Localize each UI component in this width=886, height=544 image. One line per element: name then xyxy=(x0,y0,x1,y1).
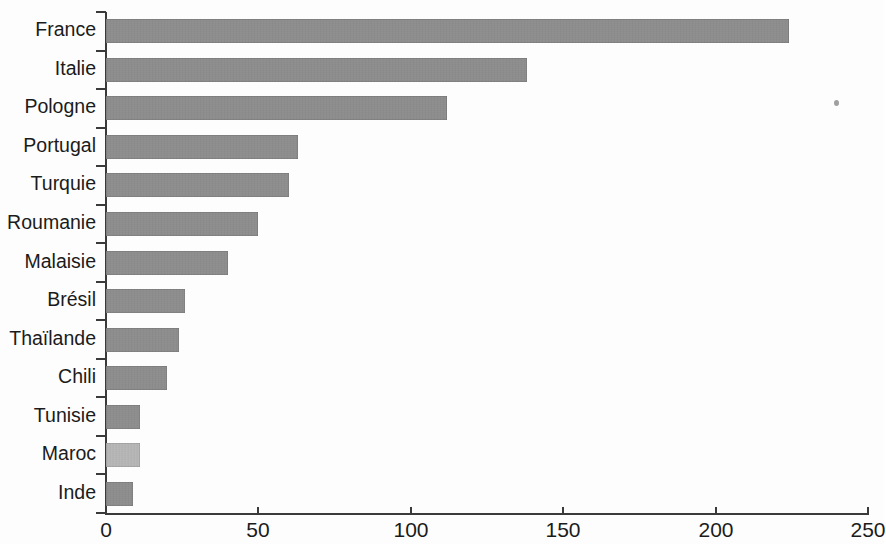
x-axis-tick-label: 50 xyxy=(246,518,269,542)
bar-br-sil xyxy=(106,289,185,313)
scan-speck-icon xyxy=(834,100,839,106)
y-axis-label-italie: Italie xyxy=(0,57,96,80)
bar-roumanie xyxy=(106,212,258,236)
bar-france xyxy=(106,19,789,43)
x-axis-tick xyxy=(410,507,412,515)
y-axis-tick xyxy=(96,358,106,360)
y-axis-tick xyxy=(96,396,106,398)
bar-portugal xyxy=(106,135,298,159)
x-axis-tick-label: 0 xyxy=(100,518,112,542)
y-axis-tick xyxy=(96,50,106,52)
bar-inde xyxy=(106,482,133,506)
x-axis-tick-label: 100 xyxy=(393,518,428,542)
y-axis-tick xyxy=(96,281,106,283)
y-axis-tick xyxy=(96,88,106,90)
y-axis-label-turquie: Turquie xyxy=(0,172,96,195)
x-axis-tick-label: 150 xyxy=(545,518,580,542)
bar-malaisie xyxy=(106,251,228,275)
x-axis-tick-label: 200 xyxy=(698,518,733,542)
x-axis-tick xyxy=(105,507,107,515)
y-axis-tick xyxy=(96,204,106,206)
y-axis-label-tha-lande: Thaïlande xyxy=(0,327,96,350)
bar-pologne xyxy=(106,96,447,120)
x-axis-tick xyxy=(715,507,717,515)
y-axis-tick xyxy=(96,319,106,321)
x-axis-line xyxy=(105,513,869,515)
y-axis-label-inde: Inde xyxy=(0,481,96,504)
bar-tha-lande xyxy=(106,328,179,352)
y-axis-label-chili: Chili xyxy=(0,365,96,388)
y-axis-tick xyxy=(96,11,106,13)
x-axis-tick xyxy=(562,507,564,515)
bar-italie xyxy=(106,58,527,82)
y-axis-label-roumanie: Roumanie xyxy=(0,211,96,234)
x-axis-tick xyxy=(867,507,869,515)
y-axis-tick xyxy=(96,435,106,437)
y-axis-label-pologne: Pologne xyxy=(0,95,96,118)
bar-tunisie xyxy=(106,405,140,429)
y-axis-label-portugal: Portugal xyxy=(0,134,96,157)
y-axis-tick xyxy=(96,242,106,244)
y-axis-label-malaisie: Malaisie xyxy=(0,250,96,273)
y-axis-tick xyxy=(96,127,106,129)
bar-maroc xyxy=(106,443,140,467)
bar-turquie xyxy=(106,173,289,197)
x-axis-tick xyxy=(257,507,259,515)
y-axis-label-maroc: Maroc xyxy=(0,442,96,465)
y-axis-label-br-sil: Brésil xyxy=(0,288,96,311)
y-axis-label-france: France xyxy=(0,18,96,41)
y-axis-tick xyxy=(96,165,106,167)
y-axis-tick xyxy=(96,473,106,475)
x-axis-tick-label: 250 xyxy=(850,518,885,542)
bar-chili xyxy=(106,366,167,390)
y-axis-label-tunisie: Tunisie xyxy=(0,404,96,427)
